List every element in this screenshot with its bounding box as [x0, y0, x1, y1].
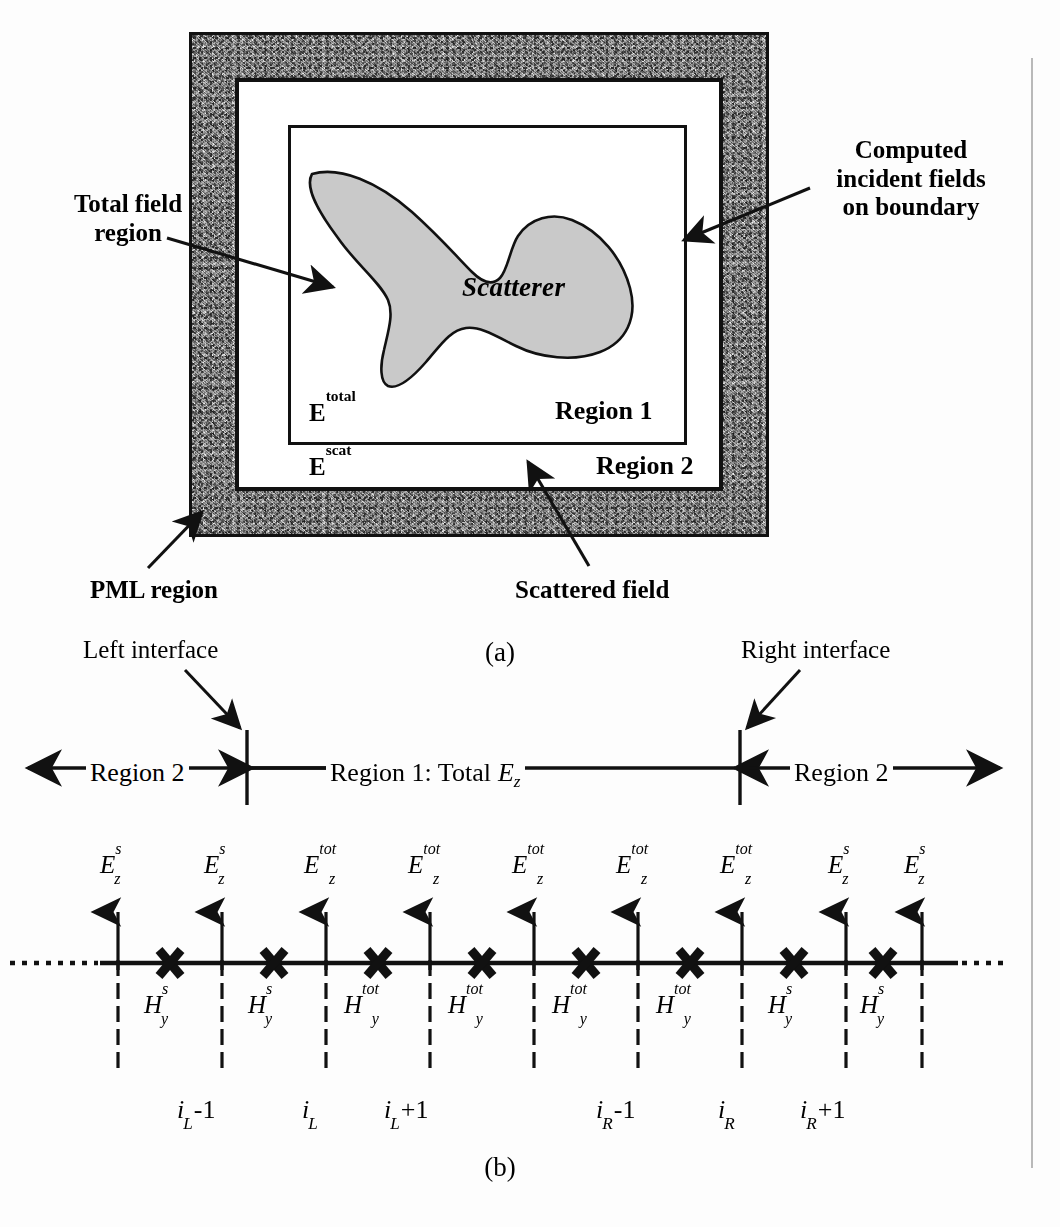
yee-grid-text: Esz Esz Etotz Etotz Etotz Etotz Etotz Es… — [0, 850, 1060, 1150]
e-scat-sup: scat — [326, 441, 352, 458]
e-total-label: Etotal — [309, 398, 356, 427]
computed-incident-line-2: incident fields — [796, 165, 1026, 194]
region-row-center-symbol: E — [498, 758, 514, 787]
h-label-3: Htoty — [344, 990, 386, 1023]
e-label-1: Esz — [100, 850, 128, 883]
index-label-4: iR-1 — [596, 1095, 635, 1129]
h-label-7: Hsy — [768, 990, 799, 1023]
e-label-5: Etotz — [512, 850, 550, 883]
index-label-1: iL-1 — [177, 1095, 215, 1129]
region-2-label: Region 2 — [596, 451, 694, 481]
scatterer-label: Scatterer — [462, 272, 565, 303]
h-label-6: Htoty — [656, 990, 698, 1023]
index-label-3: iL+1 — [384, 1095, 428, 1129]
total-field-region-line-1: Total field — [38, 190, 218, 219]
computed-incident-line-3: on boundary — [796, 193, 1026, 222]
index-label-2: iL — [302, 1095, 319, 1129]
panel-b-caption: (b) — [0, 1152, 1000, 1183]
figure-page: Scatterer Etotal Escat Region 1 Region 2… — [0, 0, 1060, 1227]
index-label-5: iR — [718, 1095, 736, 1129]
total-field-region-line-2: region — [38, 219, 218, 248]
index-label-6: iR+1 — [800, 1095, 845, 1129]
e-scat-base: E — [309, 453, 326, 480]
panel-a: Scatterer Etotal Escat Region 1 Region 2… — [0, 0, 1060, 620]
e-total-sup: total — [326, 387, 356, 404]
computed-incident-fields-callout: Computed incident fields on boundary — [796, 136, 1026, 222]
arrow-left-interface — [185, 670, 240, 728]
panel-b-interface-graphics — [0, 620, 1060, 850]
h-label-8: Hsy — [860, 990, 891, 1023]
e-label-3: Etotz — [304, 850, 342, 883]
h-label-1: Hsy — [144, 990, 175, 1023]
e-label-4: Etotz — [408, 850, 446, 883]
region-row-center-label: Region 1: TotalEz — [326, 758, 525, 792]
e-label-8: Esz — [828, 850, 856, 883]
e-label-9: Esz — [904, 850, 932, 883]
arrow-right-interface — [747, 670, 800, 728]
h-label-2: Hsy — [248, 990, 279, 1023]
region-row-center-text: Region 1: Total — [330, 758, 491, 787]
scattered-field-callout: Scattered field — [515, 576, 669, 605]
region-row-center-symbol-sub: z — [514, 772, 521, 791]
h-label-4: Htoty — [448, 990, 490, 1023]
h-label-5: Htoty — [552, 990, 594, 1023]
computed-incident-line-1: Computed — [796, 136, 1026, 165]
region-row-right-label: Region 2 — [790, 758, 893, 788]
region-1-label: Region 1 — [555, 396, 653, 426]
e-label-6: Etotz — [616, 850, 654, 883]
e-scat-label: Escat — [309, 452, 352, 481]
e-label-2: Esz — [204, 850, 232, 883]
e-label-7: Etotz — [720, 850, 758, 883]
total-field-region-callout: Total field region — [38, 190, 218, 247]
region-row-left-label: Region 2 — [86, 758, 189, 788]
pml-region-callout: PML region — [90, 576, 218, 605]
e-total-base: E — [309, 399, 326, 426]
